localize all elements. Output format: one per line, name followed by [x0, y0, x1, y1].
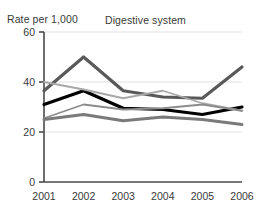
- series-dark-gray: [44, 57, 242, 98]
- x-tick-label: 2003: [112, 190, 136, 202]
- x-tick-label: 2002: [72, 190, 96, 202]
- y-tick-labels-group: 0204060: [23, 26, 35, 188]
- x-tick-labels-group: 200120022003200420052006: [32, 190, 254, 202]
- series-gray-lower: [44, 115, 242, 125]
- y-tick-label: 60: [23, 26, 35, 38]
- x-tick-label: 2004: [151, 190, 175, 202]
- line-chart-plot: 0204060 200120022003200420052006: [0, 0, 256, 221]
- x-tick-label: 2006: [230, 190, 254, 202]
- axis-group: [39, 32, 242, 182]
- y-tick-label: 0: [29, 176, 35, 188]
- y-tick-label: 40: [23, 76, 35, 88]
- chart-container: Rate per 1,000 Digestive system 0204060 …: [0, 0, 256, 221]
- x-tick-label: 2005: [191, 190, 215, 202]
- x-tick-label: 2001: [32, 190, 56, 202]
- y-tick-label: 20: [23, 126, 35, 138]
- series-group: [44, 57, 242, 125]
